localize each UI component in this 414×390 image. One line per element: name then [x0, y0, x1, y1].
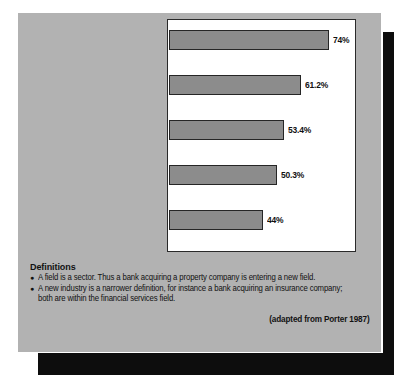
bar-value-label: 50.3%	[281, 170, 304, 180]
bar-rect	[169, 165, 277, 185]
chart-card: Acquisitions in unrelated fields 74% Acq…	[18, 13, 381, 352]
bar-value-label: 61.2%	[305, 80, 328, 90]
definitions-block: Definitions ● A field is a sector. Thus …	[30, 261, 375, 305]
attribution-text: (adapted from Porter 1987)	[269, 314, 369, 324]
bar-rect	[169, 120, 284, 140]
bar-value-label: 74%	[333, 35, 349, 45]
definition-text: A new industry is a narrower definition,…	[38, 284, 358, 305]
definition-text: A field is a sector. Thus a bank acquiri…	[38, 273, 358, 284]
drop-shadow-right	[383, 32, 394, 375]
bar-rect	[169, 210, 263, 230]
definitions-heading: Definitions	[30, 261, 358, 272]
bar-chart: Acquisitions in unrelated fields 74% Acq…	[18, 13, 381, 258]
definition-item: ● A new industry is a narrower definitio…	[30, 284, 375, 305]
bar-value-label: 53.4%	[288, 125, 311, 135]
bar-rect	[169, 75, 301, 95]
definition-item: ● A field is a sector. Thus a bank acqui…	[30, 273, 375, 284]
bullet-icon: ●	[30, 273, 38, 284]
drop-shadow-bottom	[38, 353, 394, 375]
bar-value-label: 44%	[267, 215, 283, 225]
bar-rect	[169, 30, 329, 50]
bullet-icon: ●	[30, 284, 38, 305]
